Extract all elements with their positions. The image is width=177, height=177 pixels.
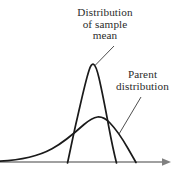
parent-distribution-label-line-2: distribution: [108, 81, 177, 93]
x-axis-arrowhead: [162, 158, 171, 166]
parent-distribution-leader-line: [119, 97, 141, 134]
parent-distribution-label: Parent distribution: [108, 69, 177, 92]
sample-mean-label-line-1: Distribution: [62, 7, 148, 19]
x-axis: [0, 158, 171, 166]
sample-mean-label: Distribution of sample mean: [62, 7, 148, 42]
statistics-distribution-figure: Distribution of sample mean Parent distr…: [0, 0, 177, 177]
parent-distribution-label-line-1: Parent: [108, 69, 177, 81]
sample-mean-label-line-3: mean: [62, 30, 148, 42]
sample-mean-leader-line: [95, 46, 114, 66]
